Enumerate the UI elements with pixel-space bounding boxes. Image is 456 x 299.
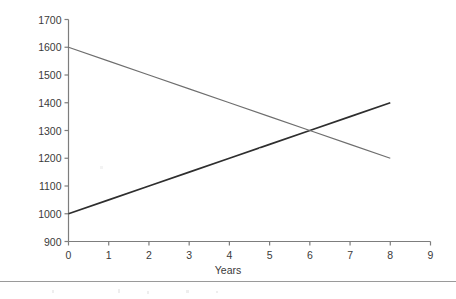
x-tick-label: 4 <box>217 250 241 261</box>
scan-artifact <box>52 290 54 293</box>
x-tick-label: 3 <box>177 250 201 261</box>
x-tick-label: 0 <box>57 250 81 261</box>
footer-divider <box>0 281 456 282</box>
figure: 90010001100120013001400150016001700 0123… <box>0 0 456 299</box>
y-tick-label: 1000 <box>22 209 62 220</box>
x-tick-label: 6 <box>298 250 322 261</box>
x-tick-label: 8 <box>378 250 402 261</box>
scan-artifact <box>186 290 189 293</box>
x-tick-label: 1 <box>97 250 121 261</box>
x-axis-title: Years <box>0 265 456 276</box>
y-tick-label: 1100 <box>22 181 62 192</box>
series-line-increasing-population <box>69 103 391 214</box>
y-tick-label: 1700 <box>22 15 62 26</box>
scan-artifact <box>100 166 103 169</box>
x-tick-label: 5 <box>258 250 282 261</box>
scan-artifact <box>147 291 149 294</box>
y-tick-label: 1300 <box>22 126 62 137</box>
axes <box>65 20 431 246</box>
series-line-decreasing-population <box>69 47 391 158</box>
scan-artifact <box>216 291 218 293</box>
y-tick-label: 900 <box>22 237 62 248</box>
x-tick-label: 9 <box>419 250 443 261</box>
y-tick-label: 1400 <box>22 98 62 109</box>
data-series <box>69 47 391 214</box>
x-tick-label: 2 <box>137 250 161 261</box>
y-tick-label: 1200 <box>22 153 62 164</box>
y-tick-label: 1600 <box>22 42 62 53</box>
scan-artifact <box>118 289 120 293</box>
scan-artifact <box>259 148 261 150</box>
y-tick-label: 1500 <box>22 70 62 81</box>
x-tick-label: 7 <box>338 250 362 261</box>
